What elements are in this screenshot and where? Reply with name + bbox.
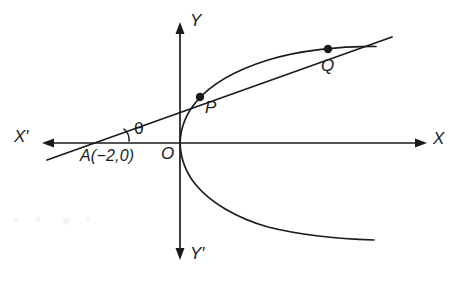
secant-line-apq — [47, 37, 392, 160]
point-p-marker — [196, 93, 204, 101]
parabola-upper-branch — [180, 46, 376, 143]
point-q-marker — [324, 45, 332, 53]
parabola-lower-branch — [180, 143, 374, 240]
geometry-figure: X′ X Y Y′ O P Q A(−2,0) θ — [0, 0, 457, 287]
y-axis-negative-label: Y′ — [190, 245, 205, 262]
x-axis-negative-label: X′ — [14, 128, 29, 145]
y-axis-positive-label: Y — [190, 12, 201, 29]
x-axis-positive-arrow-icon — [415, 139, 427, 148]
point-p-label: P — [205, 99, 216, 116]
point-a-label: A(−2,0) — [80, 148, 134, 164]
angle-theta-label: θ — [134, 121, 144, 137]
x-axis-positive-label: X — [433, 130, 444, 147]
point-q-label: Q — [321, 57, 334, 74]
figure-canvas — [0, 0, 457, 287]
y-axis-negative-arrow-icon — [176, 248, 185, 260]
x-axis-negative-arrow-icon — [42, 139, 54, 148]
origin-label: O — [161, 145, 174, 162]
y-axis-positive-arrow-icon — [176, 22, 185, 34]
